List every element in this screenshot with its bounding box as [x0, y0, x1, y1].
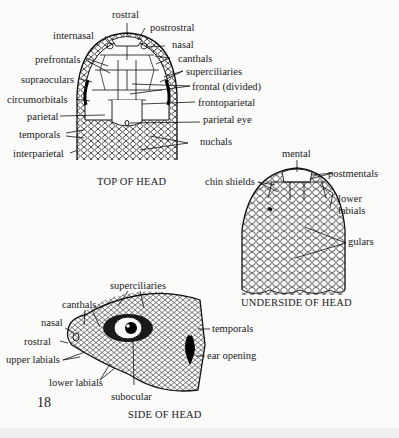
- label-upper-labials: upper labials: [6, 354, 60, 366]
- label-postrostral: postrostral: [150, 22, 194, 34]
- label-supraoculars: supraoculars: [21, 74, 74, 86]
- label-mental: mental: [282, 148, 311, 160]
- label-internasal: internasal: [53, 30, 94, 42]
- label-circumorbitals: circumorbitals: [7, 94, 68, 106]
- label-gulars: gulars: [348, 236, 374, 248]
- label-lower-labials-line1: lower: [338, 193, 362, 205]
- label-frontoparietal: frontoparietal: [198, 97, 255, 109]
- label-side-nasal: nasal: [41, 317, 63, 329]
- label-side-temporals: temporals: [212, 323, 253, 335]
- label-interparietal: interparietal: [13, 148, 64, 160]
- label-ear-opening: ear opening: [207, 350, 256, 362]
- label-prefrontals: prefrontals: [35, 54, 80, 66]
- caption-side-of-head: SIDE OF HEAD: [128, 409, 202, 420]
- label-subocular: subocular: [111, 391, 152, 403]
- caption-top-of-head: TOP OF HEAD: [97, 176, 166, 187]
- caption-underside-of-head: UNDERSIDE OF HEAD: [241, 297, 352, 308]
- label-temporals: temporals: [19, 129, 60, 141]
- label-rostral: rostral: [112, 9, 139, 21]
- label-nasal: nasal: [172, 39, 194, 51]
- label-side-lower-labials: lower labials: [49, 377, 103, 389]
- label-frontal: frontal (divided): [192, 81, 261, 93]
- label-canthals: canthals: [178, 53, 212, 65]
- page-number: 18: [37, 395, 51, 411]
- label-side-canthals: canthals: [62, 299, 96, 311]
- label-lower-labials-line2: labials: [338, 205, 365, 217]
- label-side-rostral: rostral: [24, 336, 51, 348]
- label-nuchals: nuchals: [200, 136, 232, 148]
- label-chin-shields: chin shields: [205, 176, 255, 188]
- label-superciliaries: superciliaries: [186, 66, 242, 78]
- label-side-superciliaries: superciliaries: [110, 280, 166, 292]
- label-parietal-eye: parietal eye: [203, 114, 252, 126]
- label-postmentals: postmentals: [328, 168, 378, 180]
- label-parietal: parietal: [27, 111, 58, 123]
